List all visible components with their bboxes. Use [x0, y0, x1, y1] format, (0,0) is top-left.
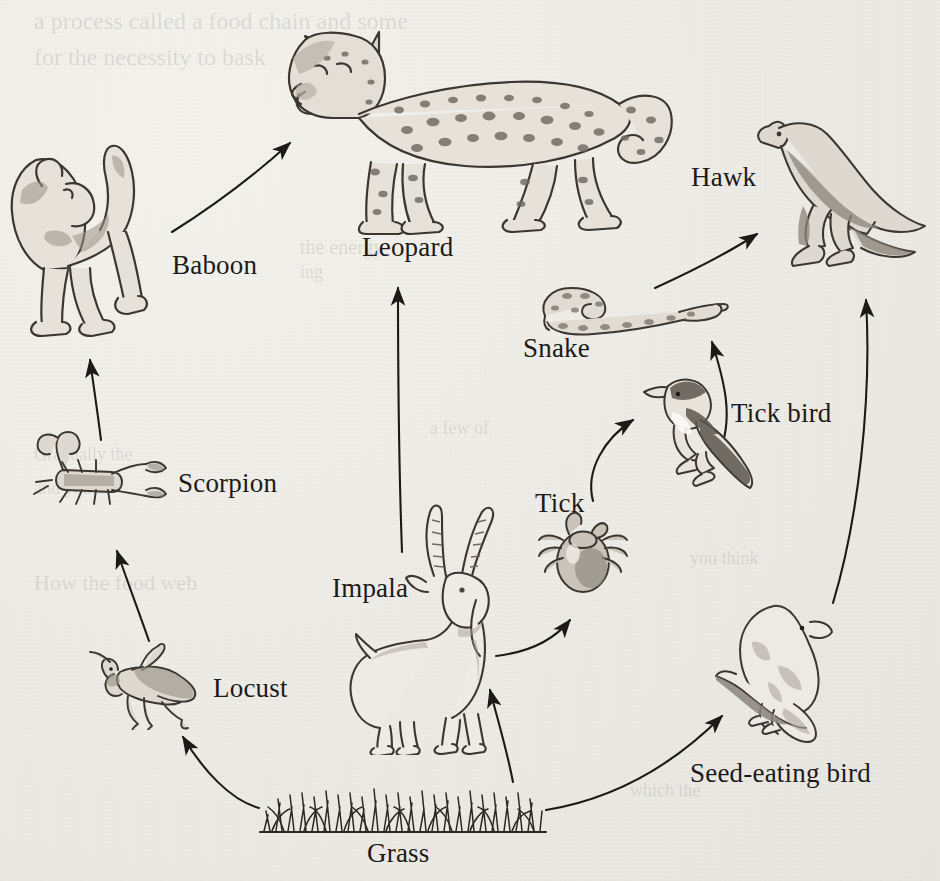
illustration-hawk	[753, 110, 933, 270]
illustration-grass	[258, 785, 548, 835]
illustration-scorpion	[28, 428, 173, 508]
label-seed-eating-bird: Seed-eating bird	[690, 760, 871, 787]
illustration-impala	[330, 500, 530, 755]
label-impala: Impala	[332, 575, 408, 602]
label-grass: Grass	[367, 840, 430, 867]
arrow-seed-eating-bird-to-hawk	[833, 300, 867, 603]
label-tick-bird: Tick bird	[731, 400, 832, 427]
arrow-grass-to-locust	[183, 737, 259, 808]
label-snake: Snake	[523, 335, 590, 362]
label-locust: Locust	[213, 675, 288, 702]
illustration-seed-eating-bird	[712, 592, 852, 747]
illustration-baboon	[8, 128, 168, 338]
label-baboon: Baboon	[172, 252, 257, 279]
diagram-canvas: a process called a food chain and somefo…	[0, 0, 940, 881]
arrow-baboon-to-leopard	[172, 143, 290, 232]
illustration-tick-bird	[640, 368, 760, 493]
illustration-snake	[533, 280, 733, 340]
illustration-locust	[88, 640, 213, 730]
label-leopard: Leopard	[362, 234, 453, 261]
label-tick: Tick	[535, 490, 584, 517]
illustration-leopard	[275, 22, 675, 237]
arrow-tick-to-tick-bird	[591, 420, 633, 501]
arrow-locust-to-scorpion	[117, 551, 149, 641]
label-hawk: Hawk	[691, 164, 756, 191]
label-scorpion: Scorpion	[178, 470, 277, 497]
